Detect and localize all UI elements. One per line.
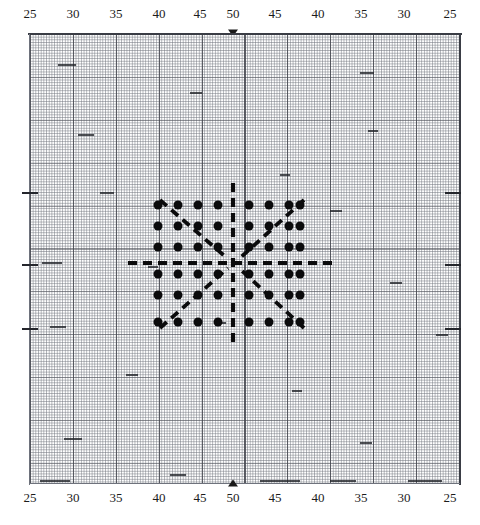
bottom-axis: 2530354045504540353025 [0, 490, 480, 512]
tick-label: 50 [227, 6, 240, 22]
grid-dash [100, 192, 114, 194]
grid-dash [170, 474, 186, 476]
edge-tick [445, 192, 461, 194]
tick-label: 40 [312, 6, 325, 22]
grid-dash [280, 174, 290, 176]
grid-dash [216, 322, 226, 324]
tick-label: 35 [110, 6, 123, 22]
tick-label: 40 [153, 490, 166, 506]
grid-dash [42, 262, 62, 264]
edge-tick [22, 264, 38, 266]
grid-dash [390, 282, 402, 284]
tick-label: 35 [355, 490, 368, 506]
tick-label: 45 [269, 490, 282, 506]
frame-top-rule [28, 33, 462, 35]
edge-tick [445, 264, 461, 266]
tick-label: 30 [67, 6, 80, 22]
grid-dash [330, 210, 342, 212]
tick-label: 45 [194, 6, 207, 22]
tick-label: 45 [269, 6, 282, 22]
tick-label: 30 [398, 490, 411, 506]
edge-tick [445, 328, 461, 330]
top-axis: 2530354045504540353025 [0, 6, 480, 28]
frame-bottom-rule [29, 483, 460, 484]
grid-dash [40, 480, 70, 482]
grid-dash [360, 72, 374, 74]
tick-label: 25 [444, 490, 457, 506]
grid-dash [148, 266, 158, 268]
arrow-up-icon [228, 479, 239, 487]
grid-dash [50, 326, 66, 328]
grid-dash [78, 134, 94, 136]
grid-dash [330, 480, 356, 482]
grid-dash [408, 480, 442, 482]
edge-tick [22, 328, 38, 330]
tick-label: 25 [444, 6, 457, 22]
tick-label: 30 [67, 490, 80, 506]
grid-dash [368, 130, 378, 132]
grid-dash [360, 442, 372, 444]
figure-root: 2530354045504540353025 25303540455045403… [0, 0, 480, 525]
grid-dash [190, 92, 202, 94]
grid-dash [58, 64, 76, 66]
grid-dash [126, 374, 138, 376]
tick-label: 25 [24, 490, 37, 506]
grid-dash [436, 334, 448, 336]
grid-dash [260, 480, 300, 482]
tick-label: 35 [110, 490, 123, 506]
tick-label: 25 [24, 6, 37, 22]
plot-area [30, 34, 460, 484]
tick-label: 50 [227, 490, 240, 506]
frame-left-rule [29, 34, 30, 485]
tick-label: 30 [398, 6, 411, 22]
grid-dash [292, 390, 302, 392]
tick-label: 40 [312, 490, 325, 506]
major-gridlines [30, 34, 460, 484]
tick-label: 35 [355, 6, 368, 22]
frame-right-rule [459, 33, 461, 485]
tick-label: 40 [153, 6, 166, 22]
edge-tick [22, 192, 38, 194]
tick-label: 45 [194, 490, 207, 506]
grid-dash [64, 438, 82, 440]
